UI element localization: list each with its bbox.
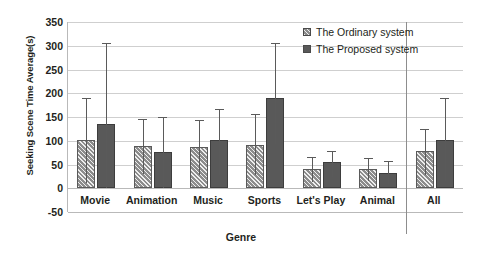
x-axis-tick-label: Sports: [248, 194, 281, 206]
error-bar-cap: [158, 117, 167, 118]
y-axis-tick-label: 350: [23, 16, 63, 28]
y-axis-tick-label: 300: [23, 40, 63, 52]
error-bar: [275, 43, 276, 143]
bar-group: [237, 22, 293, 212]
error-bar: [425, 129, 426, 175]
x-axis-tick-label: Music: [193, 194, 223, 206]
error-bar-cap: [138, 119, 147, 120]
legend-swatch-proposed-icon: [303, 45, 311, 53]
error-bar-cap: [195, 120, 204, 121]
bar-group: [181, 22, 237, 212]
error-bar-cap: [364, 158, 373, 159]
legend-label-proposed: The Proposed system: [316, 43, 418, 55]
error-bar-cap: [440, 98, 449, 99]
x-axis-tick-label: Animal: [360, 194, 395, 206]
y-axis-tick-label: 150: [23, 111, 63, 123]
error-bar-cap: [307, 157, 316, 158]
y-axis-tick-label: 100: [23, 135, 63, 147]
error-bar: [199, 120, 200, 176]
error-bar: [219, 109, 220, 175]
x-axis-tick-label: All: [427, 194, 440, 206]
error-bar-cap: [420, 129, 429, 130]
bar-group: [68, 22, 124, 212]
x-axis-tick-label: Let's Play: [297, 194, 346, 206]
error-bar-cap: [384, 161, 393, 162]
error-bar-cap: [215, 109, 224, 110]
chart-legend: The Ordinary system The Proposed system: [303, 26, 418, 60]
x-axis-tick-label: Movie: [80, 194, 110, 206]
error-bar-cap: [102, 43, 111, 44]
error-bar: [445, 98, 446, 181]
error-bar-cap: [251, 114, 260, 115]
chart-figure: Seeking Scene Time Average(s) -500501001…: [0, 0, 482, 257]
error-bar-cap: [271, 43, 280, 44]
error-bar: [332, 151, 333, 178]
error-bar: [312, 157, 313, 181]
error-bar: [163, 117, 164, 188]
x-axis-tick-label: Animation: [126, 194, 177, 206]
error-bar: [388, 161, 389, 185]
error-bar: [143, 119, 144, 174]
legend-label-ordinary: The Ordinary system: [316, 26, 413, 38]
error-bar: [106, 43, 107, 187]
error-bar: [255, 114, 256, 175]
legend-item-proposed: The Proposed system: [303, 43, 418, 55]
y-axis-tick-label: 0: [23, 182, 63, 194]
y-axis-tick-label: 250: [23, 64, 63, 76]
error-bar: [86, 98, 87, 183]
legend-item-ordinary: The Ordinary system: [303, 26, 418, 38]
error-bar: [368, 158, 369, 180]
bar-group: [124, 22, 180, 212]
legend-swatch-ordinary-icon: [303, 28, 311, 36]
error-bar-cap: [327, 151, 336, 152]
gridline: [68, 212, 463, 213]
y-axis-tick-label: 50: [23, 159, 63, 171]
y-axis-tick-label: 200: [23, 87, 63, 99]
error-bar-cap: [82, 98, 91, 99]
x-axis-title: Genre: [0, 231, 482, 243]
y-axis-tick-label: -50: [23, 206, 63, 218]
